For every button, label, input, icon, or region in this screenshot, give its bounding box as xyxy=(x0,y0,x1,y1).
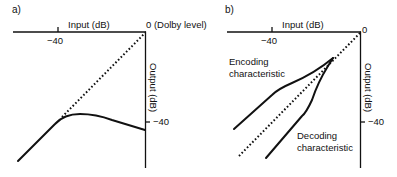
panel-a-y-axis-label: Output (dB) xyxy=(148,63,159,112)
panel-a-compression-curve xyxy=(18,114,145,161)
panel-b: b) Input (dB) −40 0 −40 Output (dB) Enco… xyxy=(225,4,384,168)
panel-b-label: b) xyxy=(225,4,234,15)
panel-a-y-tick-label: −40 xyxy=(153,116,169,127)
panel-b-y-tick-label: −40 xyxy=(368,116,384,127)
panel-a-origin-label: 0 (Dolby level) xyxy=(146,19,207,30)
encoding-label-line2: characteristic xyxy=(229,68,285,79)
panel-a-unity-line xyxy=(62,33,145,117)
panel-b-x-axis-label: Input (dB) xyxy=(282,19,324,30)
panel-b-y-axis-label: Output (dB) xyxy=(363,63,374,112)
panel-a-label: a) xyxy=(12,4,21,15)
panel-a: a) Input (dB) −40 0 (Dolby level) −40 Ou… xyxy=(12,4,207,168)
dolby-characteristics-diagram: a) Input (dB) −40 0 (Dolby level) −40 Ou… xyxy=(0,0,397,177)
decoding-label-line1: Decoding xyxy=(297,130,337,141)
panel-b-origin-label: 0 xyxy=(362,24,367,35)
panel-a-x-tick-label: −40 xyxy=(47,35,63,46)
panel-b-x-tick-label: −40 xyxy=(261,35,277,46)
encoding-label-line1: Encoding xyxy=(229,56,269,67)
panel-a-x-axis-label: Input (dB) xyxy=(68,19,110,30)
decoding-label-line2: characteristic xyxy=(297,142,353,153)
